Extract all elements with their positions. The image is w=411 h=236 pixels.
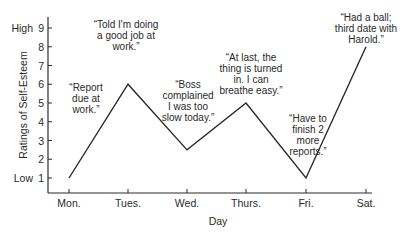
x-tick-label: Fri.	[298, 197, 313, 209]
annotation-tues: “Told I'm doinga good job atwork.”	[94, 19, 159, 52]
annotation-thurs: “At last, thething is turnedin. I canbre…	[219, 52, 282, 96]
annotation-fri: “Have tofinish 2morereports.”	[289, 113, 327, 157]
annotation-wed: “BosscomplainedI was tooslow today.”	[162, 79, 215, 123]
x-axis-title: Day	[209, 215, 228, 227]
x-axis-ticks: Mon.Tues.Wed.Thurs.Fri.Sat.	[57, 189, 375, 209]
annotations: “Reportdue atwork.”“Told I'm doinga good…	[69, 12, 397, 157]
y-tick-label: 1	[38, 172, 44, 184]
y-tick-label: 4	[38, 116, 44, 128]
x-tick-label: Tues.	[115, 197, 141, 209]
x-tick-label: Wed.	[175, 197, 199, 209]
y-axis-title: Ratings of Self-Esteem	[17, 51, 29, 159]
y-tick-label: 3	[38, 135, 44, 147]
y-tick-label: 6	[38, 78, 44, 90]
y-tick-label: 7	[38, 60, 44, 72]
annotation-sat: “Had a ball;third date withHarold.”	[335, 12, 397, 45]
y-tick-label: 5	[38, 97, 44, 109]
self-esteem-line-chart: 1Low23456789High Mon.Tues.Wed.Thurs.Fri.…	[0, 0, 411, 236]
x-tick-label: Mon.	[57, 197, 80, 209]
y-tick-label: 8	[38, 41, 44, 53]
annotation-mon: “Reportdue atwork.”	[69, 82, 103, 115]
y-tick-extra-label: Low	[14, 172, 34, 184]
y-tick-label: 9	[38, 22, 44, 34]
y-tick-extra-label: High	[11, 22, 33, 34]
y-tick-label: 2	[38, 153, 44, 165]
x-tick-label: Thurs.	[231, 197, 261, 209]
x-tick-label: Sat.	[357, 197, 376, 209]
